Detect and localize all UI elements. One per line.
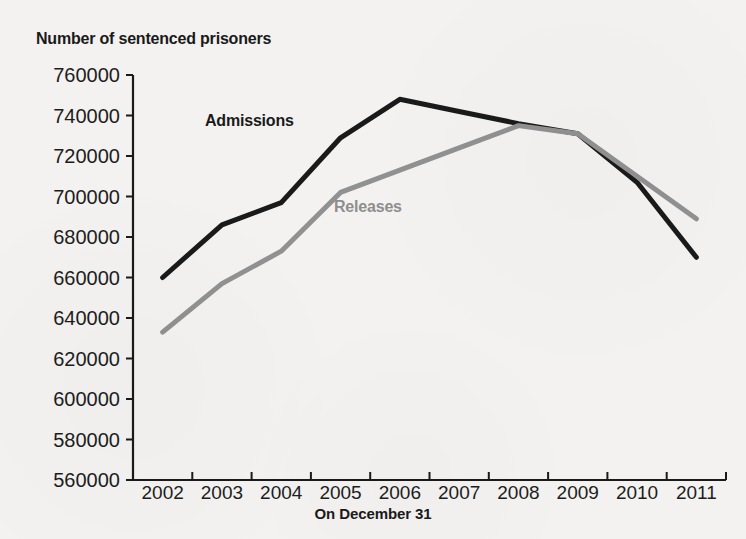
series-line-releases — [163, 126, 697, 333]
y-axis-tick-label: 760000 — [12, 64, 120, 87]
x-axis-tick-label: 2005 — [319, 482, 361, 504]
y-axis-tick-label: 640000 — [12, 307, 120, 330]
x-axis-tick-label: 2008 — [497, 482, 539, 504]
x-axis-ticks — [192, 472, 726, 480]
y-axis-tick-label: 700000 — [12, 185, 120, 208]
y-axis-tick-label: 680000 — [12, 226, 120, 249]
y-axis-tick-label: 580000 — [12, 428, 120, 451]
x-axis-tick-label: 2011 — [676, 482, 717, 504]
series-label-releases: Releases — [334, 198, 402, 216]
x-axis-tick-label: 2003 — [201, 482, 243, 504]
y-axis-tick-label: 660000 — [12, 266, 120, 289]
axis-lines — [133, 75, 726, 480]
y-axis-tick-label: 740000 — [12, 104, 120, 127]
x-axis-tick-label: 2004 — [260, 482, 302, 504]
x-axis-tick-label: 2007 — [438, 482, 480, 504]
x-axis-tick-label: 2002 — [142, 482, 184, 504]
y-axis-tick-label: 620000 — [12, 347, 120, 370]
y-axis-tick-label: 600000 — [12, 388, 120, 411]
x-axis-tick-label: 2006 — [379, 482, 421, 504]
y-axis-tick-label: 560000 — [12, 469, 120, 492]
x-axis-tick-label: 2010 — [616, 482, 658, 504]
series-label-admissions: Admissions — [205, 112, 294, 130]
x-axis-tick-label: 2009 — [557, 482, 599, 504]
y-axis-tick-label: 720000 — [12, 145, 120, 168]
x-axis-title: On December 31 — [0, 505, 746, 522]
chart-figure: Number of sentenced prisoners 7600007400… — [0, 0, 746, 539]
series-lines — [163, 99, 697, 332]
y-axis-tick-labels: 7600007400007200007000006800006600006400… — [10, 0, 120, 539]
